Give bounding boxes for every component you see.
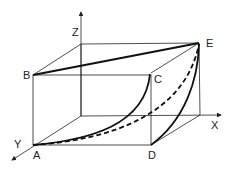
curve-a-c (33, 74, 150, 145)
y-axis-label: Y (14, 139, 21, 150)
x-axis-label: X (211, 120, 218, 131)
x-axis (81, 115, 221, 116)
point-d-label: D (148, 150, 156, 161)
z-axis-label: Z (72, 27, 79, 38)
y-axis (12, 116, 81, 160)
point-b-label: B (23, 70, 30, 81)
point-c-label: C (154, 74, 162, 85)
point-a-label: A (33, 150, 40, 161)
box-diagram (0, 0, 231, 169)
point-e-label: E (206, 38, 213, 49)
